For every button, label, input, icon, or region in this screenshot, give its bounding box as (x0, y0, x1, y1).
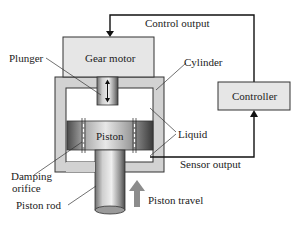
arrowhead-icon (250, 110, 258, 117)
gear-motor-label: Gear motor (85, 52, 135, 64)
plunger (97, 77, 118, 105)
arrowhead-icon (106, 31, 114, 37)
damping-orifice-label-line1: Damping (11, 170, 52, 182)
piston-label: Piston (96, 130, 124, 142)
cylinder-label: Cylinder (184, 56, 223, 68)
piston-travel-label: Piston travel (148, 194, 203, 206)
damping-orifice-label-line2: orifice (12, 182, 41, 194)
diagram-canvas (0, 0, 298, 226)
control-output-label: Control output (145, 17, 209, 29)
plunger-label: Plunger (9, 52, 43, 64)
piston-travel-arrow-icon (129, 180, 145, 207)
liquid-label: Liquid (178, 128, 207, 140)
controller-label: Controller (232, 90, 277, 102)
sensor-output-label: Sensor output (180, 158, 241, 170)
piston-rod-label: Piston rod (16, 199, 61, 211)
